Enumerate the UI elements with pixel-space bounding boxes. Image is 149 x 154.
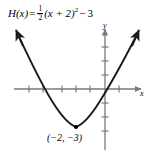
y-axis-label: y bbox=[103, 22, 107, 30]
curve-arrowhead-right bbox=[132, 30, 139, 46]
parabola-curve bbox=[16, 30, 139, 127]
vertex-coordinate-label: (−2, −3) bbox=[47, 133, 82, 143]
graph-canvas bbox=[0, 0, 149, 154]
parabola-figure: H(x)=12(x + 2)2−3 bbox=[0, 0, 149, 154]
x-axis-label: x bbox=[140, 90, 144, 98]
vertex-point bbox=[74, 125, 78, 129]
x-axis bbox=[14, 86, 141, 93]
curve-arrowhead-left bbox=[16, 30, 23, 46]
